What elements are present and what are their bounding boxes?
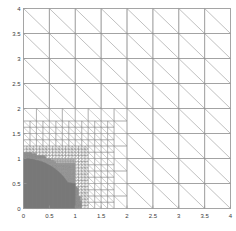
- x-tick-label: 2: [125, 213, 129, 219]
- y-tick-label: 2: [17, 106, 21, 112]
- x-tick-label: 3: [177, 213, 181, 219]
- y-tick-label: 0: [17, 206, 21, 212]
- x-tick-label: 0.5: [45, 213, 54, 219]
- mesh-figure: 00.511.522.533.5400.511.522.533.54: [0, 0, 236, 231]
- x-tick-label: 2.5: [149, 213, 158, 219]
- y-tick-label: 1.5: [12, 131, 21, 137]
- x-tick-label: 1: [74, 213, 78, 219]
- x-tick-label: 4: [229, 213, 233, 219]
- y-tick-label: 1: [17, 156, 21, 162]
- y-tick-label: 3: [17, 56, 21, 62]
- y-tick-label: 2.5: [12, 81, 21, 87]
- mesh-plot: 00.511.522.533.5400.511.522.533.54: [0, 0, 236, 231]
- y-tick-label: 0.5: [12, 181, 21, 187]
- y-tick-label: 4: [17, 6, 21, 12]
- x-tick-label: 3.5: [200, 213, 209, 219]
- y-tick-label: 3.5: [12, 31, 21, 37]
- x-tick-label: 0: [22, 213, 26, 219]
- x-tick-label: 1.5: [97, 213, 106, 219]
